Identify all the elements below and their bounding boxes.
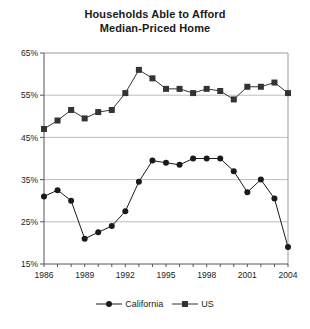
data-point-marker-square <box>231 96 237 102</box>
line-chart-plot: 15%25%35%45%55%65%1986198919921995199820… <box>0 0 310 329</box>
data-point-marker-square <box>258 84 264 90</box>
data-point-marker-square <box>82 115 88 121</box>
data-point-marker-square <box>190 90 196 96</box>
data-point-marker-circle <box>244 189 250 195</box>
y-axis-tick-label: 55% <box>21 90 38 100</box>
data-point-marker-circle <box>163 160 169 166</box>
data-point-marker-square <box>163 86 169 92</box>
data-point-marker-circle <box>149 158 155 164</box>
legend-item-us: US <box>172 299 214 309</box>
data-point-marker-square <box>271 80 277 86</box>
data-point-marker-square <box>68 107 74 113</box>
y-axis-tick-label: 45% <box>21 133 38 143</box>
series-line-california <box>44 159 288 248</box>
data-point-marker-circle <box>68 198 74 204</box>
data-point-marker-square <box>177 86 183 92</box>
legend-label-california: California <box>125 299 163 309</box>
x-axis-tick-label: 1995 <box>157 270 176 280</box>
y-axis-tick-label: 15% <box>21 259 38 269</box>
chart-figure: Households Able to Afford Median-Priced … <box>0 0 310 329</box>
data-point-marker-square <box>285 90 291 96</box>
x-axis-tick-label: 1992 <box>116 270 135 280</box>
data-point-marker-square <box>136 67 142 73</box>
data-point-marker-circle <box>177 162 183 168</box>
data-point-marker-circle <box>55 187 61 193</box>
data-point-marker-circle <box>285 244 291 250</box>
data-point-marker-circle <box>217 156 223 162</box>
x-axis-tick-label: 2004 <box>279 270 298 280</box>
legend-marker-circle-icon <box>96 299 122 309</box>
data-point-marker-square <box>109 107 115 113</box>
data-point-marker-circle <box>95 229 101 235</box>
x-axis-tick-label: 1989 <box>75 270 94 280</box>
data-point-marker-circle <box>122 208 128 214</box>
data-point-marker-circle <box>82 236 88 242</box>
data-point-marker-circle <box>271 196 277 202</box>
y-axis-tick-label: 65% <box>21 48 38 58</box>
y-axis-tick-label: 25% <box>21 217 38 227</box>
x-axis-tick-label: 2001 <box>238 270 257 280</box>
data-point-marker-square <box>149 75 155 81</box>
data-point-marker-circle <box>258 177 264 183</box>
y-axis-tick-label: 35% <box>21 175 38 185</box>
data-point-marker-circle <box>190 156 196 162</box>
data-point-marker-square <box>217 88 223 94</box>
legend-label-us: US <box>201 299 214 309</box>
legend-item-california: California <box>96 299 163 309</box>
data-point-marker-square <box>55 118 61 124</box>
data-point-marker-circle <box>109 223 115 229</box>
data-point-marker-square <box>122 90 128 96</box>
x-axis-tick-label: 1986 <box>35 270 54 280</box>
series-line-us <box>44 70 288 129</box>
data-point-marker-square <box>95 109 101 115</box>
data-point-marker-circle <box>204 156 210 162</box>
chart-legend: California US <box>0 299 310 309</box>
data-point-marker-square <box>204 86 210 92</box>
legend-marker-square-icon <box>172 299 198 309</box>
x-axis-tick-label: 1998 <box>197 270 216 280</box>
data-point-marker-circle <box>136 179 142 185</box>
data-point-marker-square <box>41 126 47 132</box>
data-point-marker-circle <box>41 193 47 199</box>
data-point-marker-square <box>244 84 250 90</box>
data-point-marker-circle <box>231 168 237 174</box>
